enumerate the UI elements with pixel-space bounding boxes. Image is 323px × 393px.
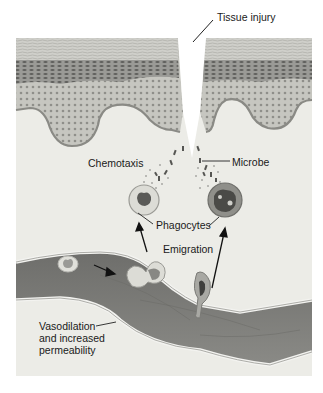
label-chemotaxis: Chemotaxis — [88, 157, 143, 169]
label-emigration: Emigration — [163, 243, 213, 255]
label-vasodilation-line3: permeability — [39, 344, 105, 356]
label-microbe: Microbe — [232, 156, 269, 168]
inflammation-diagram: Tissue injury Chemotaxis Microbe Phagocy… — [0, 0, 323, 393]
phagocyte-right — [208, 183, 242, 217]
label-tissue-injury: Tissue injury — [217, 11, 276, 23]
white-cell-in-lumen — [58, 256, 78, 272]
label-vasodilation: Vasodilation and increased permeability — [39, 320, 105, 356]
phagocyte-left — [129, 185, 159, 215]
label-vasodilation-line1: Vasodilation — [39, 320, 105, 332]
label-vasodilation-line2: and increased — [39, 332, 105, 344]
label-phagocytes: Phagocytes — [156, 219, 211, 231]
